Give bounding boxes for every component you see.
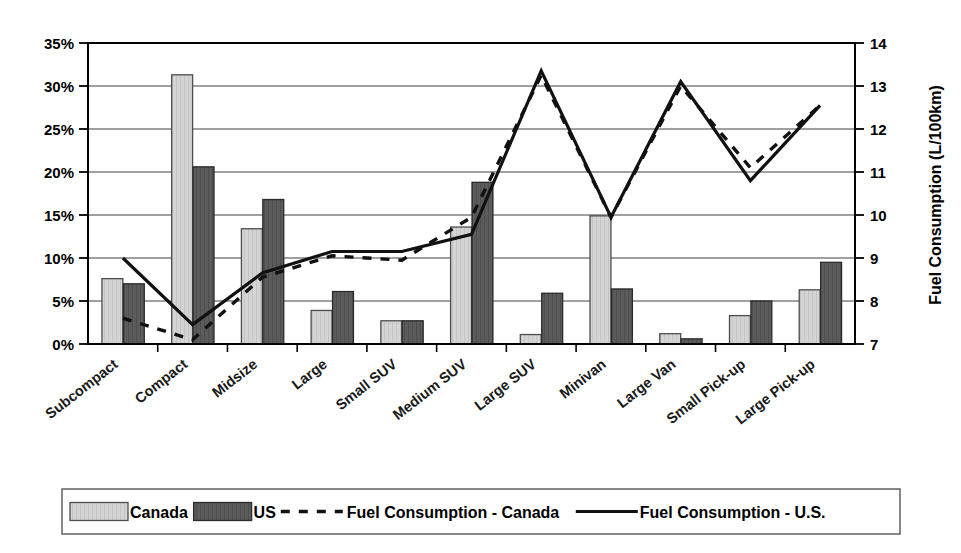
x-axis-category-label: Medium SUV — [390, 356, 470, 423]
bar-canada — [520, 335, 541, 344]
y-axis-left-ticks: 0%5%10%15%20%25%30%35% — [44, 35, 88, 353]
x-axis-category-labels: SubcompactCompactMidsizeLargeSmall SUVMe… — [42, 356, 818, 428]
x-axis-category-label: Large — [289, 356, 330, 393]
y-axis-left-tick-label: 30% — [44, 78, 74, 95]
bar-us — [402, 321, 423, 344]
bar-us — [611, 289, 632, 344]
bar-canada — [451, 227, 472, 344]
y-axis-right-tick-label: 12 — [870, 121, 887, 138]
legend-label-fuel-consumption-canada: Fuel Consumption - Canada — [347, 504, 560, 521]
legend-label-us: US — [254, 504, 277, 521]
bar-canada — [102, 279, 123, 344]
x-axis-category-label: Large Van — [614, 356, 678, 411]
bar-canada — [729, 316, 750, 344]
bar-us — [333, 292, 354, 344]
chart-container: 0%5%10%15%20%25%30%35% 7891011121314 Sub… — [0, 0, 961, 553]
x-axis-category-label: Subcompact — [42, 356, 121, 422]
x-axis-category-label: Large SUV — [471, 356, 539, 414]
bar-canada — [381, 321, 402, 344]
y-axis-right-tick-label: 9 — [870, 250, 878, 267]
bar-canada — [590, 216, 611, 344]
x-axis-category-label: Minivan — [556, 356, 608, 402]
x-axis-category-label: Midsize — [209, 356, 260, 401]
bar-us — [751, 301, 772, 344]
y-axis-right-tick-label: 10 — [870, 207, 887, 224]
bar-us — [542, 293, 563, 344]
bar-canada — [172, 75, 193, 344]
y-axis-left-tick-label: 0% — [52, 336, 74, 353]
y-axis-right-ticks: 7891011121314 — [855, 35, 887, 353]
legend-swatch-us — [194, 503, 252, 521]
right-axis-title: Fuel Consumption (L/100km) — [927, 85, 944, 305]
y-axis-left-tick-label: 10% — [44, 250, 74, 267]
bar-us — [821, 262, 842, 344]
legend-swatch-canada — [70, 503, 128, 521]
y-axis-left-tick-label: 35% — [44, 35, 74, 52]
y-axis-left-tick-label: 20% — [44, 164, 74, 181]
y-axis-right-tick-label: 8 — [870, 293, 878, 310]
bar-canada — [799, 290, 820, 344]
x-axis-category-label: Compact — [132, 356, 191, 407]
y-axis-left-tick-label: 25% — [44, 121, 74, 138]
y-axis-right-tick-label: 11 — [870, 164, 886, 181]
x-axis-category-label: Small SUV — [333, 356, 400, 413]
bar-canada — [660, 334, 681, 344]
y-axis-right-tick-label: 14 — [870, 35, 887, 52]
fuel-economy-chart: 0%5%10%15%20%25%30%35% 7891011121314 Sub… — [0, 0, 961, 553]
y-axis-right-tick-label: 7 — [870, 336, 878, 353]
y-axis-left-tick-label: 5% — [52, 293, 74, 310]
y-axis-left-tick-label: 15% — [44, 207, 74, 224]
y-axis-right-tick-label: 13 — [870, 78, 887, 95]
legend-label-fuel-consumption-us: Fuel Consumption - U.S. — [640, 504, 826, 521]
legend-label-canada: Canada — [130, 504, 188, 521]
bars-group — [102, 75, 842, 344]
chart-legend: CanadaUSFuel Consumption - CanadaFuel Co… — [62, 489, 900, 534]
bar-canada — [311, 310, 332, 344]
bar-us — [123, 284, 144, 344]
